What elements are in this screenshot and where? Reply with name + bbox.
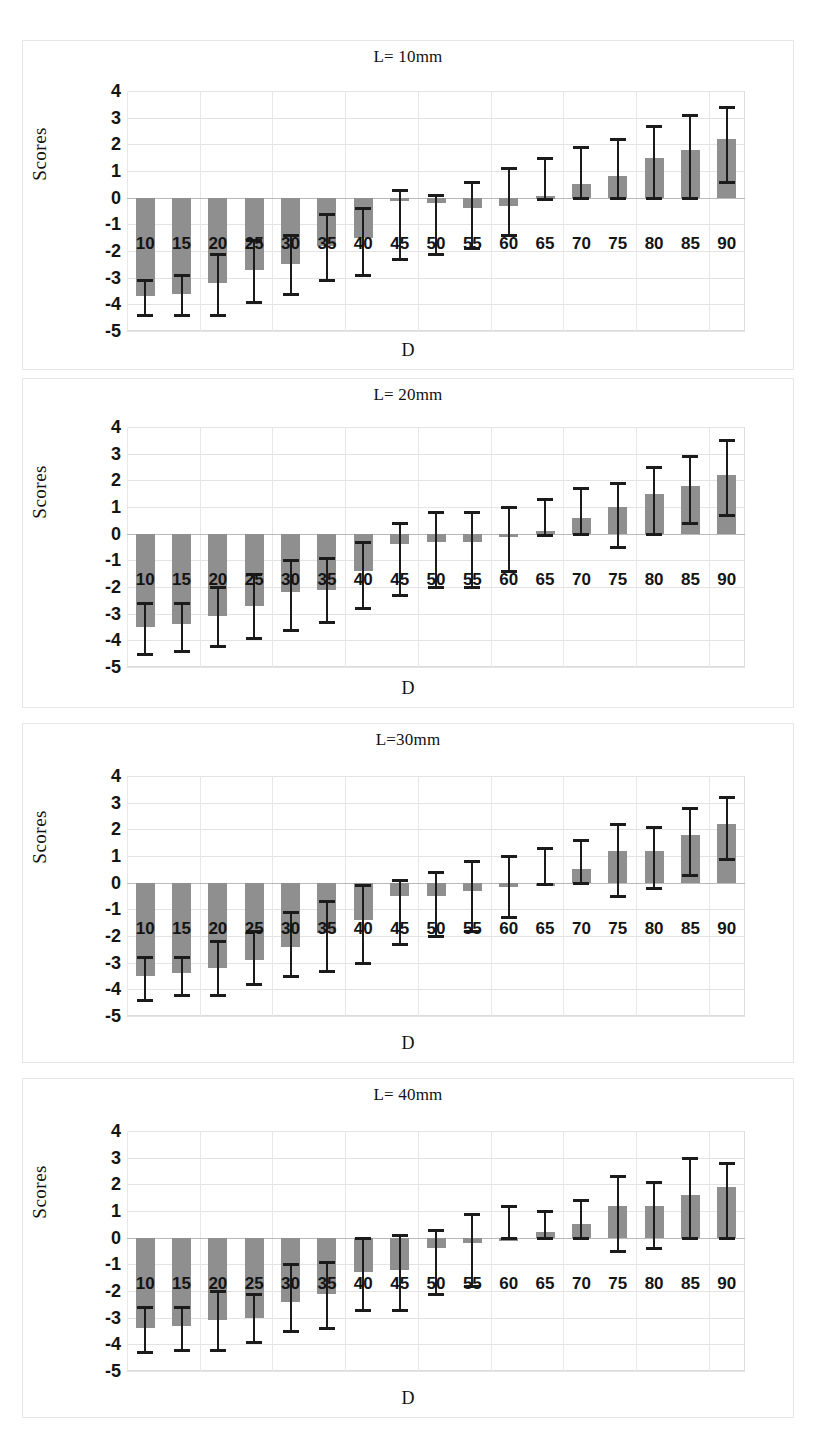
error-bar-cap-upper bbox=[610, 823, 626, 826]
error-bar-cap-upper bbox=[682, 1157, 698, 1160]
error-bar-line bbox=[326, 1262, 328, 1329]
y-axis-ticks: 43210-1-2-3-4-5 bbox=[85, 724, 121, 1036]
y-tick-label: 1 bbox=[111, 1201, 121, 1222]
error-bar-cap-lower bbox=[719, 181, 735, 184]
error-bar-cap-lower bbox=[501, 1237, 517, 1240]
error-bar-line bbox=[508, 507, 510, 571]
error-bar-cap-upper bbox=[392, 522, 408, 525]
error-bar-cap-upper bbox=[319, 557, 335, 560]
gridline-horizontal bbox=[127, 1344, 745, 1345]
error-bar-line bbox=[580, 840, 582, 883]
y-axis-label: Scores bbox=[29, 465, 51, 519]
error-bar-cap-upper bbox=[719, 796, 735, 799]
error-bar-cap-upper bbox=[501, 167, 517, 170]
error-bar-cap-lower bbox=[283, 1330, 299, 1333]
y-tick-label: 3 bbox=[111, 792, 121, 813]
error-bar-cap-lower bbox=[719, 858, 735, 861]
error-bar-cap-upper bbox=[501, 506, 517, 509]
y-tick-label: 0 bbox=[111, 187, 121, 208]
x-tick-label: 90 bbox=[717, 234, 736, 254]
error-bar-cap-upper bbox=[283, 559, 299, 562]
error-bar-cap-lower bbox=[682, 874, 698, 877]
error-bar-cap-lower bbox=[646, 197, 662, 200]
error-bar-cap-lower bbox=[719, 1237, 735, 1240]
chart-panel-1: L= 10mmScoresD43210-1-2-3-4-510152025303… bbox=[22, 40, 794, 370]
y-tick-label: -5 bbox=[105, 1006, 121, 1027]
error-bar-cap-lower bbox=[573, 197, 589, 200]
x-tick-label: 45 bbox=[390, 1274, 409, 1294]
error-bar-line bbox=[217, 254, 219, 315]
gridline-vertical bbox=[200, 776, 201, 1016]
gridline-vertical bbox=[636, 427, 637, 667]
x-tick-label: 70 bbox=[572, 570, 591, 590]
error-bar-line bbox=[544, 499, 546, 535]
x-tick-label: 15 bbox=[172, 919, 191, 939]
error-bar-line bbox=[326, 558, 328, 622]
y-axis-ticks: 43210-1-2-3-4-5 bbox=[85, 1079, 121, 1391]
x-tick-label: 70 bbox=[572, 919, 591, 939]
error-bar-cap-lower bbox=[210, 314, 226, 317]
error-bar-cap-lower bbox=[682, 1237, 698, 1240]
x-tick-label: 40 bbox=[354, 919, 373, 939]
x-tick-label: 75 bbox=[608, 570, 627, 590]
error-bar-cap-lower bbox=[355, 1309, 371, 1312]
error-bar-line bbox=[181, 957, 183, 994]
error-bar-cap-upper bbox=[682, 455, 698, 458]
error-bar-cap-lower bbox=[537, 534, 553, 537]
chart-title: L= 10mm bbox=[23, 47, 793, 67]
y-tick-label: -3 bbox=[105, 603, 121, 624]
y-tick-label: -3 bbox=[105, 952, 121, 973]
error-bar-cap-lower bbox=[210, 994, 226, 997]
error-bar-cap-upper bbox=[137, 956, 153, 959]
error-bar-line bbox=[580, 488, 582, 533]
x-tick-label: 35 bbox=[317, 570, 336, 590]
x-tick-label: 50 bbox=[427, 919, 446, 939]
x-tick-label: 40 bbox=[354, 1274, 373, 1294]
y-tick-label: -1 bbox=[105, 550, 121, 571]
error-bar-cap-lower bbox=[682, 522, 698, 525]
x-tick-label: 80 bbox=[645, 234, 664, 254]
plot-area: 1015202530354045505560657075808590 bbox=[127, 91, 745, 331]
error-bar-cap-lower bbox=[283, 629, 299, 632]
error-bar-cap-upper bbox=[355, 884, 371, 887]
gridline-vertical bbox=[127, 776, 128, 1016]
y-tick-label: 0 bbox=[111, 872, 121, 893]
x-axis-label: D bbox=[23, 340, 793, 361]
error-bar-cap-upper bbox=[537, 157, 553, 160]
y-tick-label: -1 bbox=[105, 899, 121, 920]
error-bar-cap-lower bbox=[392, 594, 408, 597]
x-tick-label: 10 bbox=[136, 234, 155, 254]
gridline-vertical bbox=[636, 776, 637, 1016]
error-bar-cap-upper bbox=[573, 839, 589, 842]
y-tick-label: -2 bbox=[105, 1281, 121, 1302]
x-axis-label: D bbox=[23, 1388, 793, 1409]
gridline-vertical bbox=[491, 91, 492, 331]
error-bar-cap-upper bbox=[392, 1234, 408, 1237]
error-bar-line bbox=[144, 957, 146, 1000]
gridline-horizontal bbox=[127, 1371, 745, 1372]
gridline-vertical bbox=[345, 776, 346, 1016]
error-bar-cap-upper bbox=[610, 1175, 626, 1178]
error-bar-cap-upper bbox=[392, 879, 408, 882]
x-tick-label: 40 bbox=[354, 570, 373, 590]
gridline-vertical bbox=[200, 1131, 201, 1371]
gridline-vertical bbox=[636, 1131, 637, 1371]
x-tick-label: 80 bbox=[645, 570, 664, 590]
error-bar-cap-lower bbox=[646, 533, 662, 536]
x-axis-label: D bbox=[23, 1033, 793, 1054]
error-bar-cap-lower bbox=[355, 962, 371, 965]
gridline-vertical bbox=[127, 427, 128, 667]
error-bar-cap-upper bbox=[501, 1205, 517, 1208]
x-tick-label: 85 bbox=[681, 1274, 700, 1294]
error-bar-cap-upper bbox=[283, 911, 299, 914]
error-bar-cap-lower bbox=[283, 293, 299, 296]
x-tick-label: 45 bbox=[390, 919, 409, 939]
x-tick-label: 20 bbox=[208, 234, 227, 254]
error-bar-cap-upper bbox=[428, 871, 444, 874]
error-bar-line bbox=[181, 603, 183, 651]
x-tick-label: 15 bbox=[172, 570, 191, 590]
error-bar-cap-upper bbox=[137, 1306, 153, 1309]
x-tick-label: 35 bbox=[317, 1274, 336, 1294]
error-bar-cap-upper bbox=[719, 106, 735, 109]
x-tick-label: 10 bbox=[136, 1274, 155, 1294]
